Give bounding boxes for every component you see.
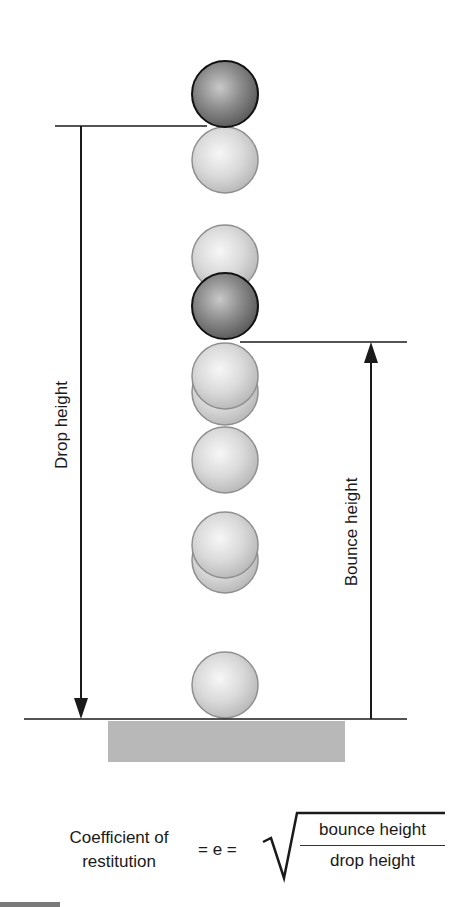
equals-e: = e =	[198, 838, 237, 862]
ball-dark-start-icon	[192, 61, 258, 127]
coefficient-label-line1: Coefficient of	[54, 826, 184, 850]
coefficient-label: Coefficient of restitution	[54, 826, 184, 874]
fraction: bounce height drop height	[300, 818, 445, 873]
fraction-denominator: drop height	[300, 846, 445, 873]
ball-light-icon	[192, 127, 258, 193]
drop-height-label: Drop height	[52, 381, 71, 469]
ball-trajectory	[192, 61, 258, 718]
ball-light-icon	[192, 343, 258, 409]
fraction-numerator: bounce height	[300, 818, 445, 846]
corner-bar	[0, 902, 60, 907]
bounce-diagram: Drop height Bounce height	[0, 0, 459, 907]
ball-dark-apex-icon	[192, 273, 258, 339]
ball-light-icon	[192, 427, 258, 493]
ball-ground-icon	[192, 652, 258, 718]
arrow-down-icon	[74, 698, 88, 719]
ball-light-icon	[192, 512, 258, 578]
bounce-height-label: Bounce height	[342, 477, 361, 586]
arrow-up-icon	[364, 342, 378, 363]
ground-surface	[108, 721, 345, 762]
coefficient-label-line2: restitution	[54, 850, 184, 874]
